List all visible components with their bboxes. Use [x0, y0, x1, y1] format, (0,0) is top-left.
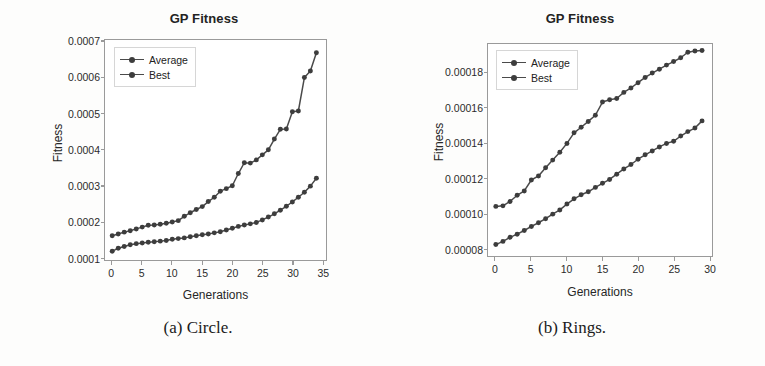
y-tick-label: 0.00012 [437, 173, 483, 185]
data-point [536, 220, 541, 225]
figure-page: GP Fitness Fitness Generations 0.00010.0… [0, 0, 765, 366]
data-point [614, 96, 619, 101]
y-tick-label: 0.0004 [54, 144, 100, 156]
x-tick-label: 0 [492, 263, 498, 275]
data-point [607, 97, 612, 102]
data-point [557, 150, 562, 155]
y-tick-label: 0.00014 [437, 137, 483, 149]
data-point [543, 165, 548, 170]
data-point [242, 222, 247, 227]
data-point [254, 157, 259, 162]
data-point [664, 141, 669, 146]
series-line-average [112, 178, 316, 251]
data-point [188, 210, 193, 215]
x-tick-label: 15 [597, 263, 609, 275]
data-point [621, 166, 626, 171]
data-point [692, 49, 697, 54]
data-point [110, 233, 115, 238]
data-point [515, 232, 520, 237]
data-point [242, 160, 247, 165]
data-point [230, 183, 235, 188]
data-point [628, 86, 633, 91]
data-point [152, 239, 157, 244]
data-point [200, 204, 205, 209]
data-point [700, 118, 705, 123]
legend-item-best-b: Best [502, 70, 570, 85]
data-point [122, 230, 127, 235]
legend-item-average-a: Average [120, 52, 188, 67]
x-tick-mark [566, 257, 567, 261]
data-point [579, 192, 584, 197]
data-point [643, 152, 648, 157]
data-point [557, 207, 562, 212]
data-point [678, 55, 683, 60]
x-tick-label: 30 [287, 267, 299, 279]
data-point [572, 196, 577, 201]
x-tick-mark [494, 257, 495, 261]
data-point [579, 125, 584, 130]
data-point [230, 226, 235, 231]
data-point [643, 75, 648, 80]
data-point [500, 239, 505, 244]
x-tick-mark [141, 261, 142, 265]
caption-a: (a) Circle. [18, 318, 378, 338]
data-point [628, 162, 633, 167]
data-point [236, 171, 241, 176]
legend-label-average: Average [531, 57, 570, 69]
data-point [164, 238, 169, 243]
data-point [657, 144, 662, 149]
y-tick-label: 0.0007 [54, 35, 100, 47]
data-point [522, 188, 527, 193]
y-tick-label: 0.0005 [54, 108, 100, 120]
data-point [536, 173, 541, 178]
data-point [493, 242, 498, 247]
x-tick-label: 15 [196, 267, 208, 279]
data-point [128, 242, 133, 247]
subfigure-a: GP Fitness Fitness Generations 0.00010.0… [18, 0, 378, 366]
data-point [140, 225, 145, 230]
y-tick-label: 0.00008 [437, 244, 483, 256]
data-point [296, 109, 301, 114]
data-point [543, 216, 548, 221]
data-point [128, 228, 133, 233]
legend-item-best-a: Best [120, 67, 188, 82]
data-point [302, 75, 307, 80]
x-tick-label: 20 [633, 263, 645, 275]
data-point [290, 199, 295, 204]
legend-label-best: Best [531, 72, 552, 84]
x-tick-mark [262, 261, 263, 265]
x-tick-mark [710, 257, 711, 261]
data-point [116, 246, 121, 251]
y-tick-label: 0.00016 [437, 102, 483, 114]
data-point [614, 172, 619, 177]
data-point [212, 230, 217, 235]
y-tick-label: 0.0003 [54, 180, 100, 192]
data-point [278, 127, 283, 132]
data-point [671, 139, 676, 144]
data-point [140, 240, 145, 245]
data-point [657, 67, 662, 72]
data-point [664, 63, 669, 68]
series-line-average [496, 121, 702, 245]
data-point [572, 130, 577, 135]
data-point [636, 157, 641, 162]
data-point [515, 193, 520, 198]
legend-marker-line-icon [502, 73, 526, 83]
data-point [308, 184, 313, 189]
data-point [308, 69, 313, 74]
data-point [134, 226, 139, 231]
data-point [116, 231, 121, 236]
data-point [314, 50, 319, 55]
data-point [302, 190, 307, 195]
data-point [248, 161, 253, 166]
data-point [650, 148, 655, 153]
data-point [550, 212, 555, 217]
legend-label-average: Average [149, 54, 188, 66]
data-point [314, 176, 319, 181]
x-tick-label: 30 [704, 263, 716, 275]
data-point [272, 211, 277, 216]
data-point [564, 141, 569, 146]
data-point [685, 129, 690, 134]
x-tick-label: 35 [318, 267, 330, 279]
data-point [700, 48, 705, 53]
